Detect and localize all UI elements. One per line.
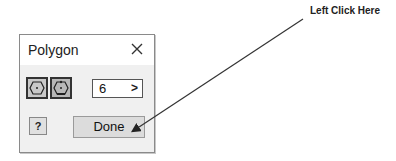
callout-arrow <box>0 0 396 161</box>
callout-label: Left Click Here <box>310 5 380 16</box>
